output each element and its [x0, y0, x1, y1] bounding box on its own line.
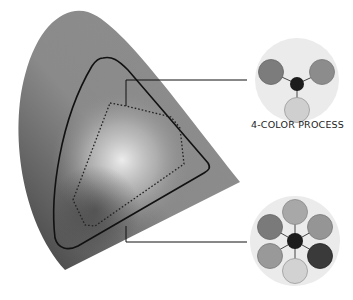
four-color-process-label: 4-COLOR PROCESS — [245, 119, 350, 130]
ink-dot-upper-right — [308, 215, 333, 240]
ink-dot-top-right — [310, 60, 335, 85]
four-color-process-disk — [255, 38, 339, 123]
ink-dot-center — [290, 77, 304, 91]
six-color-process-disk — [250, 196, 340, 286]
ink-dot-lower-left — [258, 244, 283, 269]
visible-spectrum-gamut — [18, 11, 240, 270]
ink-dot-center — [287, 233, 303, 249]
ink-dot-top — [283, 200, 308, 225]
gamut-diagram — [0, 0, 353, 300]
ink-dot-top-left — [259, 60, 284, 85]
ink-dot-bottom — [283, 259, 308, 284]
ink-dot-lower-right — [308, 244, 333, 269]
ink-dot-upper-left — [258, 215, 283, 240]
